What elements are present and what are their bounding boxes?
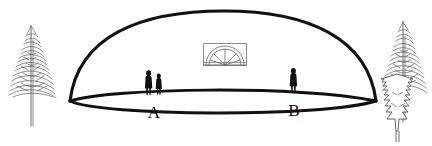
label-point-b: B xyxy=(288,101,299,120)
base-ellipse-upper-arc xyxy=(70,90,376,101)
people-group-b xyxy=(290,68,297,93)
dome-outline xyxy=(70,11,376,101)
left-conifer-tree-icon xyxy=(9,26,56,126)
dome-scale-diagram: A B xyxy=(0,0,432,146)
right-conifer-tree-icon xyxy=(382,22,427,122)
fanlight-window-icon xyxy=(204,44,247,66)
right-fir-tree-icon xyxy=(381,74,413,142)
diagram-canvas: A B xyxy=(0,0,432,146)
label-point-a: A xyxy=(148,103,161,122)
base-ellipse-lower-arc xyxy=(70,101,376,113)
person-figure xyxy=(290,68,297,93)
